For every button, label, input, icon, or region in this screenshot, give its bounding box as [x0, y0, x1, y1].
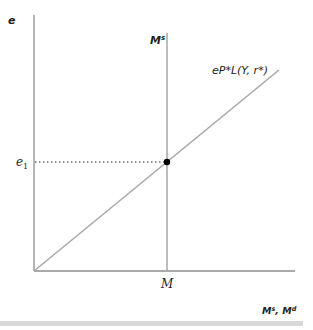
bottom-divider-bar — [0, 321, 303, 326]
equilibrium-rate-label: e1 — [16, 155, 28, 171]
y-axis-label: e — [8, 14, 16, 27]
money-demand-label: eP*L(Y, r*) — [212, 64, 268, 77]
money-supply-tick-label: M — [160, 277, 174, 291]
money-supply-label: Ms — [150, 34, 165, 47]
money-demand-curve — [34, 70, 279, 271]
x-axis-label: Ms, Md — [262, 305, 297, 317]
money-market-diagram: e Ms eP*L(Y, r*) e1 M Ms, Md — [0, 0, 313, 330]
equilibrium-point — [164, 159, 170, 165]
